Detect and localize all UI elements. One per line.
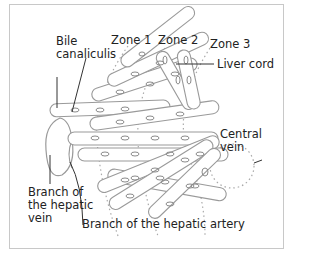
label-zone3: Zone 3 bbox=[210, 38, 250, 51]
label-line: canaliculis bbox=[56, 48, 116, 61]
label-zone1: Zone 1 bbox=[111, 34, 151, 47]
label-bile-canaliculis: Bile canaliculis bbox=[56, 35, 116, 61]
label-hepatic-artery-branch: Branch of the hepatic artery bbox=[82, 218, 245, 231]
label-central-vein: Central vein bbox=[220, 128, 262, 154]
label-line: vein bbox=[220, 141, 262, 154]
label-liver-cord: Liver cord bbox=[217, 58, 274, 71]
label-zone2: Zone 2 bbox=[158, 34, 198, 47]
